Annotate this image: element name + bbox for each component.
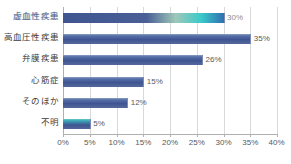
x-tick-label-40: 40% [268, 137, 284, 149]
bar-value-label-1: 35% [254, 31, 270, 47]
category-label-1: 高血圧性疾患 [4, 31, 59, 44]
x-tick-label-10: 10% [108, 137, 124, 149]
x-tick-label-30: 30% [215, 137, 231, 149]
bar-row: 30% [63, 9, 277, 30]
category-label-2: 弁膜疾患 [22, 52, 59, 65]
bar-row: 5% [63, 115, 277, 136]
bar-1[interactable] [63, 34, 251, 44]
bar-value-label-0: 30% [227, 10, 243, 26]
bar-row: 15% [63, 73, 277, 94]
bar-value-label-2: 26% [206, 52, 222, 68]
bar-5[interactable] [63, 119, 91, 129]
x-tick-label-0: 0% [57, 137, 69, 149]
x-tick-label-20: 20% [162, 137, 178, 149]
category-label-3: 心筋症 [31, 74, 59, 87]
bar-3[interactable] [63, 77, 144, 87]
category-label-0: 虚血性疾患 [13, 10, 59, 23]
x-tick-label-5: 5% [84, 137, 96, 149]
x-tick-label-15: 15% [135, 137, 151, 149]
bar-row: 35% [63, 30, 277, 51]
x-tick-label-35: 35% [242, 137, 258, 149]
x-tick-label-25: 25% [189, 137, 205, 149]
category-label-4: そのほか [22, 95, 59, 108]
bar-chart: 30% 35% 26% 15% 12% 5% 虚血性疾患 高血圧性疾患 弁膜疾患 [0, 0, 291, 164]
bar-4[interactable] [63, 98, 128, 108]
bar-row: 26% [63, 51, 277, 72]
bar-row: 12% [63, 94, 277, 115]
bar-value-label-3: 15% [147, 74, 163, 90]
bar-0[interactable] [63, 13, 225, 23]
bar-value-label-4: 12% [131, 95, 147, 111]
category-label-5: 不明 [41, 116, 59, 129]
bar-value-label-5: 5% [93, 116, 105, 132]
bar-2[interactable] [63, 55, 203, 65]
plot-area: 30% 35% 26% 15% 12% 5% [63, 7, 277, 134]
